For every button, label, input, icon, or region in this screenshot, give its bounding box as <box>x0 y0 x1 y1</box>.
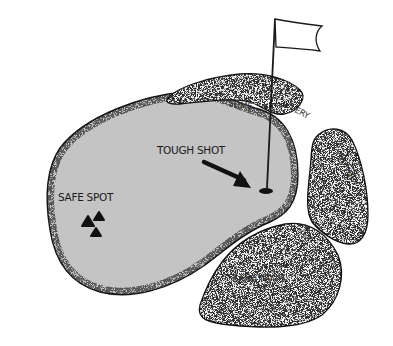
trap-label-sand-traps: SAND TRAPS <box>233 274 285 284</box>
golf-green-diagram: SAFE SPOT TOUGH SHOT SOME VERY HUNGRY SA… <box>0 0 393 346</box>
flag-cloth <box>275 19 322 51</box>
hole-icon <box>259 188 273 194</box>
tough-shot-label: TOUGH SHOT <box>156 144 226 156</box>
trap-label-very: VERY <box>288 102 312 121</box>
sand-trap-hungry <box>308 129 368 244</box>
safe-spot-label: SAFE SPOT <box>58 191 114 203</box>
